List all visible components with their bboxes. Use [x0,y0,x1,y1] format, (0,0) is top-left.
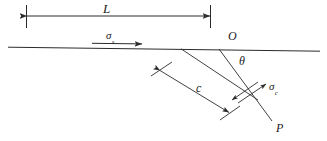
label-driving-stress: σs [106,30,114,44]
figure-canvas [0,0,327,141]
crack-dimension-tick-end [220,106,240,120]
shear-arrow-up [238,84,266,103]
label-crack-tip-P: P [276,122,283,134]
dimension-line-c [160,71,229,113]
crack-face-line [181,49,258,100]
sigma-glyph: σ [106,29,111,41]
label-angle-theta: θ [239,55,245,67]
free-surface-line [8,47,320,51]
label-crack-stress: σc [269,81,277,95]
sigma-glyph: σ [269,80,274,92]
crack-mechanics-figure: L O θ c P σs σc [0,0,327,141]
crack-dimension-tick-start [151,62,172,76]
sigma-subscript: s [112,38,115,45]
label-crack-length-c: c [196,82,201,94]
label-origin-O: O [228,30,237,42]
driving-stress-arrow [92,43,142,44]
sigma-subscript: c [275,89,278,96]
label-length-L: L [103,2,110,15]
